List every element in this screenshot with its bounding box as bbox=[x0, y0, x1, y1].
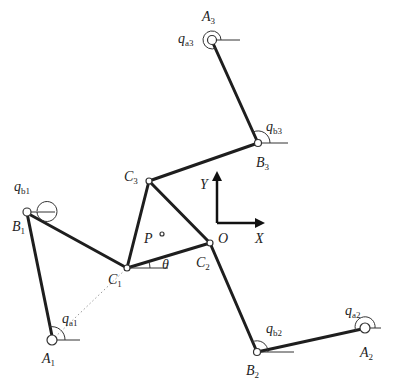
label-qb3: qb3 bbox=[266, 120, 282, 136]
link-c2-b2 bbox=[210, 243, 257, 352]
label-qb2: qb2 bbox=[266, 322, 282, 338]
label-c3: C3 bbox=[124, 170, 138, 186]
label-a2: A2 bbox=[360, 346, 373, 362]
x-axis-arrow-icon bbox=[255, 218, 265, 228]
link-a1-b1 bbox=[27, 213, 52, 336]
joint-a2 bbox=[360, 323, 370, 333]
link-a3-b3 bbox=[212, 41, 258, 143]
joint-a1 bbox=[47, 335, 57, 345]
joint-b3 bbox=[255, 140, 262, 147]
joint-c1 bbox=[124, 265, 130, 271]
label-b3: B3 bbox=[256, 156, 269, 172]
joint-b1 bbox=[23, 208, 31, 216]
joint-c3 bbox=[146, 178, 152, 184]
diagram-drawing bbox=[0, 0, 393, 386]
y-axis-arrow-icon bbox=[212, 171, 222, 181]
label-qa3: qa3 bbox=[178, 32, 194, 48]
joint-b2 bbox=[254, 349, 261, 356]
label-b2: B2 bbox=[246, 364, 259, 380]
point-p bbox=[160, 232, 164, 236]
joint-c2 bbox=[207, 240, 213, 246]
label-a3: A3 bbox=[202, 10, 215, 26]
label-a1: A1 bbox=[42, 352, 55, 368]
label-b1: B1 bbox=[12, 220, 25, 236]
joint-a3 bbox=[208, 36, 217, 45]
label-qa1: qa1 bbox=[62, 312, 78, 328]
angle-arc-theta bbox=[149, 262, 150, 268]
label-o: O bbox=[218, 232, 228, 246]
label-qa2: qa2 bbox=[345, 304, 361, 320]
label-x-axis: X bbox=[255, 232, 264, 246]
label-y-axis: Y bbox=[200, 178, 208, 192]
manipulator-diagram: A3 qa3 qb3 B3 C3 Y X O P qb1 B1 C1 θ C2 … bbox=[0, 0, 393, 386]
platform-edge-c1-c3 bbox=[127, 181, 149, 268]
label-theta: θ bbox=[162, 258, 169, 272]
label-qb1: qb1 bbox=[14, 180, 30, 196]
label-p: P bbox=[144, 232, 153, 246]
link-b3-c3 bbox=[149, 143, 258, 181]
label-c2: C2 bbox=[196, 256, 210, 272]
link-b1-c1 bbox=[27, 213, 127, 268]
label-c1: C1 bbox=[108, 273, 122, 289]
